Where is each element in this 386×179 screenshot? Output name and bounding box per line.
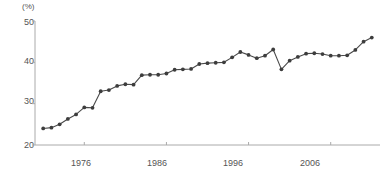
data-point <box>362 40 366 44</box>
data-point <box>370 36 374 40</box>
data-point <box>280 67 284 71</box>
line-chart: (%) 50 40 30 20 1976 1986 1996 2006 <box>0 0 386 179</box>
data-point <box>321 52 325 56</box>
data-point <box>91 106 95 110</box>
data-point <box>222 60 226 64</box>
data-point <box>271 48 275 52</box>
data-point <box>247 53 251 57</box>
axis-lines <box>35 21 380 145</box>
data-point <box>74 113 78 117</box>
data-point <box>312 51 316 55</box>
data-point <box>329 54 333 58</box>
data-point <box>140 73 144 77</box>
data-point <box>238 50 242 54</box>
data-point <box>197 62 201 66</box>
data-point <box>50 126 54 130</box>
data-point <box>214 61 218 65</box>
data-point <box>148 73 152 77</box>
data-point <box>107 88 111 92</box>
data-point <box>304 52 308 56</box>
data-point <box>337 54 341 58</box>
series-line <box>43 38 372 129</box>
data-point <box>263 54 267 58</box>
data-point <box>255 56 259 60</box>
data-point <box>206 61 210 65</box>
data-point <box>296 55 300 59</box>
data-point <box>230 55 234 59</box>
data-point <box>189 67 193 71</box>
data-point <box>58 122 62 126</box>
data-point <box>165 72 169 76</box>
data-point <box>123 82 127 86</box>
data-point <box>156 73 160 77</box>
data-point <box>66 117 70 121</box>
data-point <box>115 84 119 88</box>
data-point <box>353 48 357 52</box>
plot-area <box>0 0 386 179</box>
data-point <box>181 67 185 71</box>
data-point <box>99 89 103 93</box>
data-point <box>82 105 86 109</box>
series-markers <box>41 36 373 131</box>
data-point <box>173 68 177 72</box>
data-point <box>345 53 349 57</box>
data-point <box>288 59 292 63</box>
data-point <box>41 127 45 131</box>
data-point <box>132 83 136 87</box>
